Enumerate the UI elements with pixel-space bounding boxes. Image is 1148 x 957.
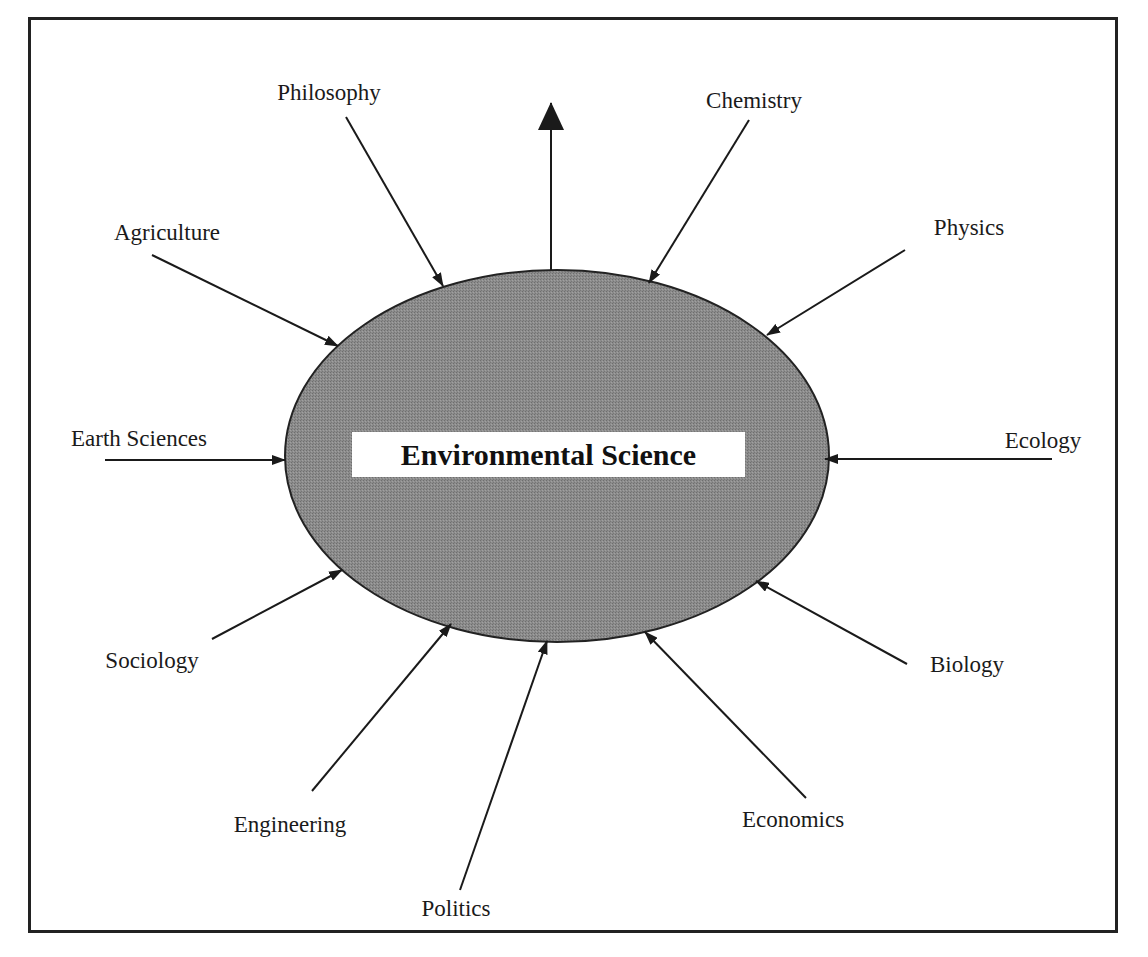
node-label-agriculture: Agriculture — [114, 220, 220, 246]
node-label-philosophy: Philosophy — [277, 80, 381, 106]
economics-arrow — [645, 632, 806, 798]
center-label-box: Environmental Science — [352, 432, 745, 477]
node-label-earth-sciences: Earth Sciences — [71, 426, 207, 452]
physics-arrow — [767, 250, 905, 335]
biology-arrow — [756, 581, 907, 664]
node-label-economics: Economics — [742, 807, 844, 833]
diagram-canvas: Environmental Science PhilosophyChemistr… — [0, 0, 1148, 957]
sociology-arrow — [212, 570, 342, 639]
diagram-graphics — [0, 0, 1148, 957]
node-label-politics: Politics — [421, 896, 490, 922]
node-label-biology: Biology — [930, 652, 1004, 678]
politics-arrow — [460, 641, 547, 890]
node-label-chemistry: Chemistry — [706, 88, 802, 114]
node-label-physics: Physics — [934, 215, 1004, 241]
node-label-engineering: Engineering — [234, 812, 346, 838]
philosophy-arrow — [346, 117, 443, 286]
chemistry-arrow — [649, 120, 749, 283]
center-title: Environmental Science — [401, 438, 696, 472]
node-label-sociology: Sociology — [105, 648, 198, 674]
engineering-arrow — [312, 624, 451, 791]
node-label-ecology: Ecology — [1005, 428, 1082, 454]
agriculture-arrow — [152, 255, 338, 346]
